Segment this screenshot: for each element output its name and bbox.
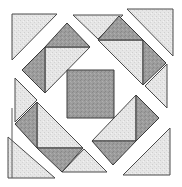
- unit-top-left-dark-top: [45, 23, 90, 47]
- center-square: [67, 70, 114, 118]
- unit-bottom-right-dark-bottom: [92, 141, 136, 165]
- quilt-block-diagram: [0, 0, 182, 187]
- unit-bottom-right-dark-right: [136, 95, 159, 141]
- unit-top-left-dark-left: [22, 47, 45, 93]
